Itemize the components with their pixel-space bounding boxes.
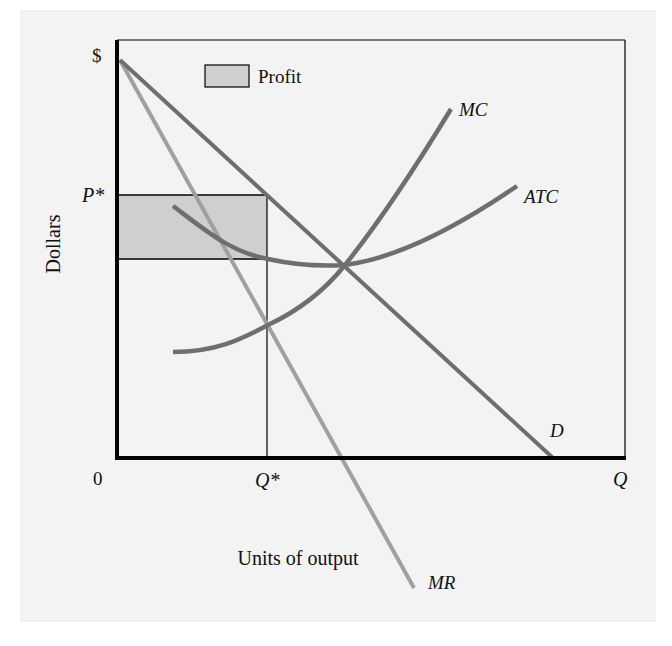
legend-swatch-profit — [205, 65, 249, 87]
x-axis-title: Units of output — [237, 547, 359, 570]
mc-label: MC — [458, 99, 488, 120]
legend-label-profit: Profit — [258, 66, 302, 87]
y-axis-title: Dollars — [42, 214, 64, 273]
p-star-label: P* — [81, 184, 104, 206]
mr-label: MR — [427, 572, 456, 593]
atc-label: ATC — [522, 186, 558, 207]
origin-label: 0 — [93, 468, 103, 489]
d-label: D — [549, 420, 564, 441]
y-axis-top-label: $ — [92, 45, 102, 66]
q-axis-end-label: Q — [613, 468, 628, 490]
monopoly-profit-chart: Profit $ P* Dollars 0 Q* Q Units of outp… — [0, 0, 672, 646]
q-star-label: Q* — [255, 469, 279, 491]
profit-area — [119, 195, 267, 259]
